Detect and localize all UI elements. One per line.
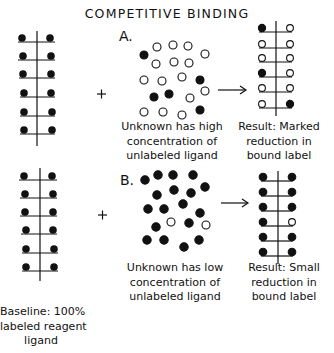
panel-b-letter: B.	[120, 172, 134, 188]
panel-a-unknown-caption: Unknown has high concentration of unlabe…	[112, 120, 232, 164]
arrow-a	[218, 86, 246, 94]
mixture-a	[140, 41, 209, 119]
plus-sign-a	[97, 90, 106, 99]
panel-b-unknown-caption: Unknown has low concentration of unlabel…	[115, 261, 235, 305]
plus-sign-b	[98, 211, 107, 220]
arrow-b	[221, 199, 248, 207]
panel-a-result-caption: Result: Marked reduction in bound label	[226, 120, 332, 164]
panel-a-letter: A.	[119, 28, 133, 44]
mixture-b	[141, 171, 210, 251]
baseline-caption: Baseline: 100% labeled reagent ligand	[0, 305, 82, 349]
panel-b-result-caption: Result: Small reduction in bound label	[236, 261, 332, 305]
baseline-bottom-dots	[20, 172, 58, 271]
